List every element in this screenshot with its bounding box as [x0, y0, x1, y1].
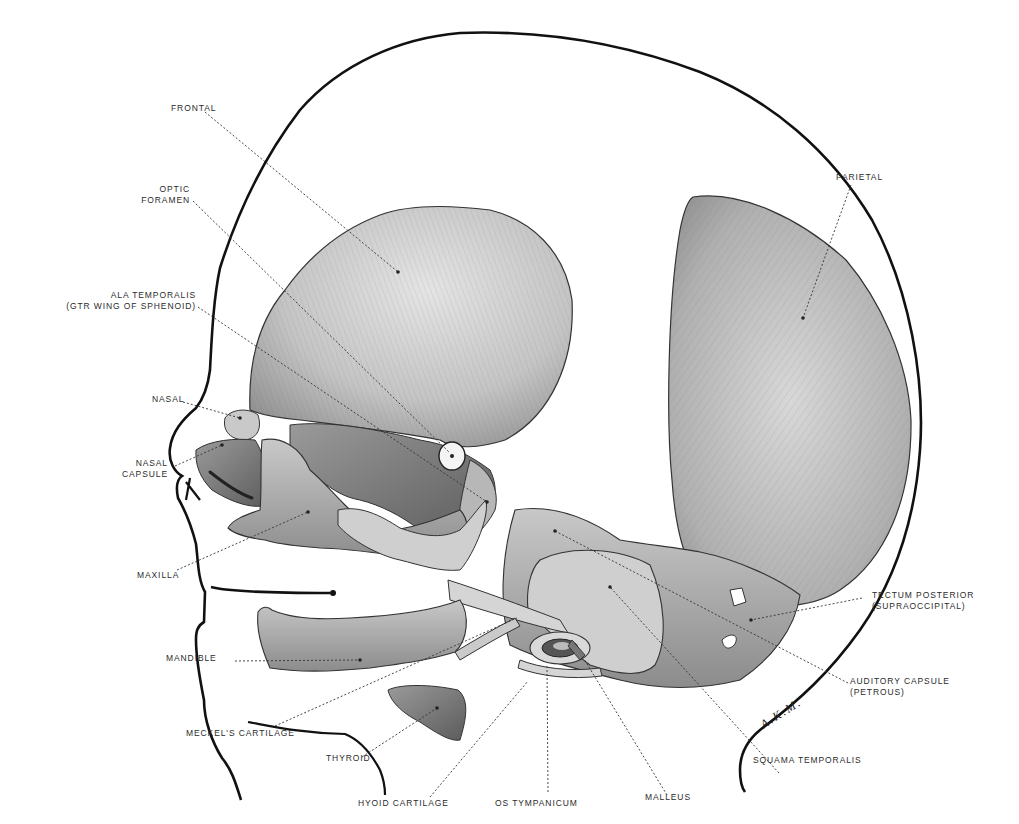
- label-tectum-posterior-line1: TECTUM POSTERIOR: [872, 590, 974, 601]
- label-ala-temporalis-line1: ALA TEMPORALIS: [20, 290, 196, 301]
- label-hyoid-cartilage: HYOID CARTILAGE: [358, 798, 449, 809]
- label-thyroid: THYROID: [326, 753, 371, 764]
- label-auditory-capsule: AUDITORY CAPSULE (PETROUS): [850, 676, 950, 698]
- label-optic-foramen-line1: OPTIC: [135, 184, 190, 195]
- label-nasal-capsule-line2: CAPSULE: [110, 469, 168, 480]
- label-frontal: FRONTAL: [171, 103, 216, 114]
- label-malleus: MALLEUS: [645, 792, 691, 803]
- skull-illustration: [0, 0, 1019, 824]
- mouth-line: [211, 587, 330, 593]
- figure-caption-cutoff: [0, 812, 1019, 824]
- label-auditory-capsule-line1: AUDITORY CAPSULE: [850, 676, 950, 687]
- label-nasal: NASAL: [152, 394, 184, 405]
- label-maxilla: MAXILLA: [137, 570, 179, 581]
- label-optic-foramen-line2: FORAMEN: [135, 195, 190, 206]
- label-ala-temporalis-line2: (GTR WING OF SPHENOID): [20, 301, 196, 312]
- label-ala-temporalis: ALA TEMPORALIS (GTR WING OF SPHENOID): [20, 290, 196, 312]
- label-optic-foramen: OPTIC FORAMEN: [135, 184, 190, 206]
- label-squama-temporalis: SQUAMA TEMPORALIS: [753, 755, 862, 766]
- label-auditory-capsule-line2: (PETROUS): [850, 687, 950, 698]
- label-parietal: PARIETAL: [836, 172, 883, 183]
- label-tectum-posterior: TECTUM POSTERIOR (SUPRAOCCIPITAL): [872, 590, 974, 612]
- nostril: [186, 478, 200, 500]
- nasal-capsule: [196, 439, 270, 506]
- label-os-tympanicum: OS TYMPANICUM: [495, 798, 578, 809]
- label-nasal-capsule: NASAL CAPSULE: [110, 458, 168, 480]
- label-nasal-capsule-line1: NASAL: [110, 458, 168, 469]
- label-meckels-cartilage: MECKEL'S CARTILAGE: [186, 728, 295, 739]
- nasal-bone: [224, 410, 259, 440]
- label-mandible: MANDIBLE: [166, 653, 217, 664]
- label-tectum-posterior-line2: (SUPRAOCCIPITAL): [872, 601, 974, 612]
